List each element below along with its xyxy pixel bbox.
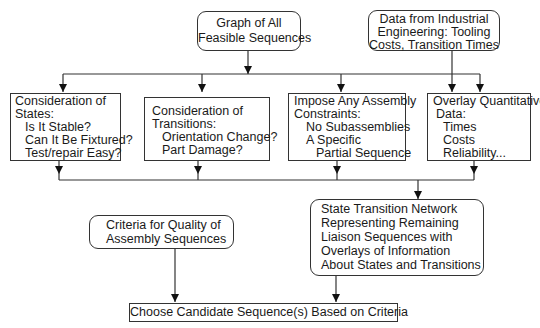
- assembly-sequence-flowchart: Graph of All Feasible Sequences Data fro…: [0, 0, 540, 328]
- box-text: State Transition Network: [321, 202, 483, 216]
- box-text: Feasible Sequences: [198, 31, 300, 46]
- box-text: Criteria for Quality of: [106, 218, 233, 232]
- box-text: Partial Sequence: [294, 147, 405, 160]
- assembly-constraints-box: Impose Any Assembly Constraints: No Suba…: [288, 93, 406, 161]
- box-text: About States and Transitions: [321, 258, 483, 272]
- industrial-engineering-data-box: Data from Industrial Engineering: Toolin…: [368, 10, 500, 51]
- graph-of-feasible-sequences-box: Graph of All Feasible Sequences: [197, 11, 301, 51]
- consideration-of-states-box: Consideration of States: Is It Stable? C…: [10, 93, 121, 161]
- choose-candidate-sequences-box: Choose Candidate Sequence(s) Based on Cr…: [129, 303, 398, 322]
- box-text: Assembly Sequences: [106, 232, 233, 246]
- box-text: Reliability...: [433, 147, 530, 160]
- box-text: Graph of All: [198, 16, 300, 31]
- box-text: Part Damage?: [152, 144, 269, 157]
- state-transition-network-box: State Transition Network Representing Re…: [310, 199, 484, 276]
- consideration-of-transitions-box: Consideration of Transitions: Orientatio…: [144, 97, 270, 161]
- box-text: Costs, Transition Times: [369, 39, 499, 52]
- box-text: Liaison Sequences with: [321, 230, 483, 244]
- quality-criteria-box: Criteria for Quality of Assembly Sequenc…: [89, 215, 234, 249]
- box-text: Representing Remaining: [321, 216, 483, 230]
- box-text: Choose Candidate Sequence(s) Based on Cr…: [130, 304, 397, 321]
- box-text: Test/repair Easy?: [15, 147, 120, 160]
- overlay-quantitative-data-box: Overlay Quantitative Data: Times Costs R…: [427, 93, 531, 161]
- box-text: Overlays of Information: [321, 244, 483, 258]
